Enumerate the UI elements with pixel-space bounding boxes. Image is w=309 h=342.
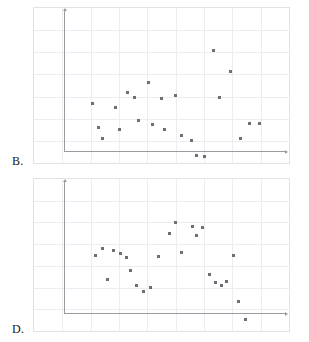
data-point (174, 221, 177, 224)
data-point (248, 122, 251, 125)
gridline-vertical (204, 8, 205, 163)
gridline-horizontal (34, 266, 289, 267)
data-point (151, 123, 154, 126)
data-point (157, 255, 160, 258)
data-point (118, 128, 121, 131)
x-axis (64, 313, 286, 314)
data-point (137, 119, 140, 122)
y-axis (64, 181, 65, 313)
data-point (163, 128, 166, 131)
gridline-horizontal (34, 309, 289, 310)
data-point (168, 232, 171, 235)
x-axis-arrow-icon (285, 312, 288, 316)
gridline-vertical (176, 8, 177, 163)
data-point (201, 226, 204, 229)
scatter-plot-d[interactable] (33, 178, 290, 332)
data-point (229, 70, 232, 73)
gridline-vertical (261, 8, 262, 163)
data-point (119, 252, 122, 255)
data-point (218, 96, 221, 99)
data-point (125, 256, 128, 259)
data-point (94, 254, 97, 257)
data-point (133, 96, 136, 99)
data-point (135, 284, 138, 287)
choice-label-d: D. (12, 323, 24, 335)
choice-label-b: B. (12, 155, 24, 167)
gridline-horizontal (34, 52, 289, 53)
data-point (258, 122, 261, 125)
data-point (129, 269, 132, 272)
data-point (114, 106, 117, 109)
data-point (126, 91, 129, 94)
data-point (174, 94, 177, 97)
data-point (149, 286, 152, 289)
data-point (101, 247, 104, 250)
data-point (239, 137, 242, 140)
y-axis-arrow-icon (63, 179, 67, 182)
gridline-vertical (232, 8, 233, 163)
data-point (112, 249, 115, 252)
y-axis-arrow-icon (63, 8, 67, 11)
data-point (214, 281, 217, 284)
gridline-horizontal (34, 244, 289, 245)
gridline-vertical (91, 8, 92, 163)
gridline-vertical (119, 8, 120, 163)
x-axis (64, 151, 286, 152)
data-point (147, 81, 150, 84)
data-point (191, 225, 194, 228)
choice-d-block: D. (0, 171, 309, 342)
gridline-horizontal (34, 288, 289, 289)
data-point (91, 102, 94, 105)
gridline-horizontal (34, 222, 289, 223)
data-point (101, 137, 104, 140)
y-axis (64, 10, 65, 151)
choice-b-block: B. (0, 0, 309, 171)
data-point (237, 300, 240, 303)
data-point (190, 139, 193, 142)
gridline-horizontal (34, 74, 289, 75)
data-point (142, 290, 145, 293)
data-point (232, 254, 235, 257)
gridline-horizontal (34, 141, 289, 142)
data-point (180, 251, 183, 254)
x-axis-arrow-icon (285, 150, 288, 154)
gridline-horizontal (34, 201, 289, 202)
data-point (203, 155, 206, 158)
gridline-horizontal (34, 30, 289, 31)
data-point (220, 284, 223, 287)
data-point (97, 126, 100, 129)
data-point (195, 154, 198, 157)
gridline-vertical (147, 8, 148, 163)
gridline-vertical (62, 8, 63, 163)
data-point (244, 318, 247, 321)
data-point (160, 97, 163, 100)
scatter-plot-b[interactable] (33, 7, 290, 164)
data-point (106, 278, 109, 281)
data-point (225, 280, 228, 283)
gridline-horizontal (34, 119, 289, 120)
data-point (195, 234, 198, 237)
worksheet-page: B. D. (0, 0, 309, 342)
data-point (212, 49, 215, 52)
data-point (208, 273, 211, 276)
data-point (180, 134, 183, 137)
